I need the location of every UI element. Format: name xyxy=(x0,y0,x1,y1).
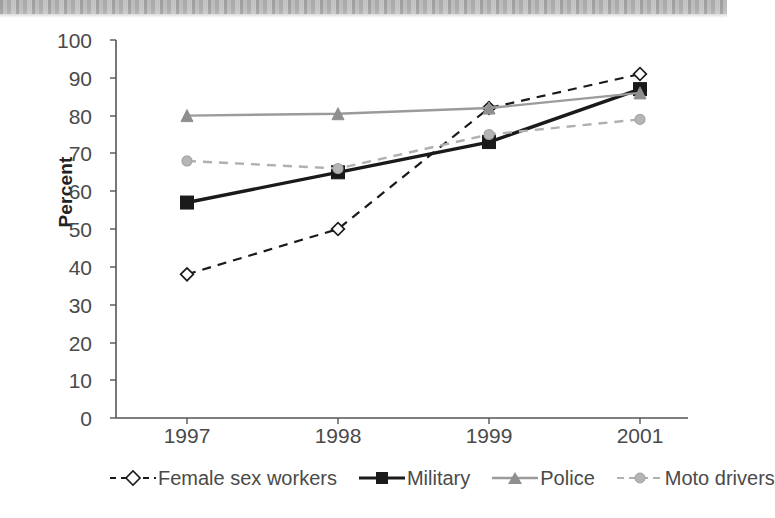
data-point-marker xyxy=(635,114,645,124)
series-line xyxy=(187,119,640,168)
series-line xyxy=(187,74,640,274)
data-point-marker xyxy=(181,196,194,209)
legend-item-military[interactable]: Military xyxy=(359,468,470,488)
data-point-marker xyxy=(182,156,192,166)
legend-key-police xyxy=(492,469,538,487)
data-point-marker xyxy=(634,68,647,81)
series-military xyxy=(181,83,647,209)
data-point-marker xyxy=(181,268,194,281)
legend-key-moto-drivers xyxy=(617,469,663,487)
data-point-marker xyxy=(333,164,343,174)
legend-label-police: Police xyxy=(540,468,594,488)
legend-item-police[interactable]: Police xyxy=(492,468,594,488)
legend-label-female-sex-workers: Female sex workers xyxy=(158,468,337,488)
legend-item-moto-drivers[interactable]: Moto drivers xyxy=(617,468,775,488)
data-point-marker xyxy=(484,130,494,140)
series-layer xyxy=(181,68,647,281)
legend-label-military: Military xyxy=(407,468,470,488)
series-police xyxy=(181,87,646,122)
legend-key-female-sex-workers xyxy=(110,469,156,487)
x-tick-marks xyxy=(187,418,640,424)
chart-legend: Female sex workers Military Police xyxy=(110,462,670,494)
legend-item-female-sex-workers[interactable]: Female sex workers xyxy=(110,468,337,488)
legend-key-military xyxy=(359,469,405,487)
series-moto-drivers xyxy=(182,114,645,173)
series-line xyxy=(187,89,640,202)
y-tick-marks xyxy=(110,40,116,418)
legend-label-moto-drivers: Moto drivers xyxy=(665,468,775,488)
